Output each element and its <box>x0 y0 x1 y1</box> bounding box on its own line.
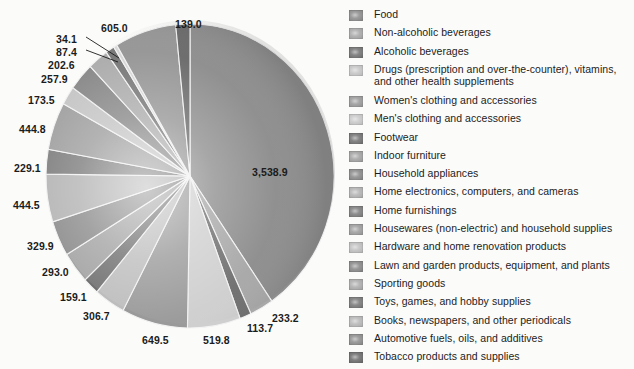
legend-item-label: Indoor furniture <box>374 149 446 162</box>
legend-item-label: Home electronics, computers, and cameras <box>374 185 579 198</box>
legend-item[interactable]: Footwear <box>349 131 418 144</box>
legend-item-label: Sporting goods <box>374 277 445 290</box>
legend-swatch-icon <box>349 261 363 272</box>
legend-item-label: Housewares (non-electric) and household … <box>374 222 612 235</box>
legend-swatch-icon <box>349 47 363 58</box>
pie-value-label: 306.7 <box>83 310 110 322</box>
legend-item[interactable]: Home electronics, computers, and cameras <box>349 185 579 198</box>
legend-swatch-icon <box>349 133 363 144</box>
legend-item[interactable]: Tobacco products and supplies <box>349 350 520 363</box>
legend-swatch-icon <box>349 65 363 76</box>
pie-value-label: 34.1 <box>56 33 77 45</box>
legend-item-label: Women's clothing and accessories <box>374 94 537 107</box>
legend-item-label: Alcoholic beverages <box>374 45 469 58</box>
legend-item-label: Automotive fuels, oils, and additives <box>374 332 543 345</box>
legend-swatch-icon <box>349 242 363 253</box>
legend-swatch-icon <box>349 187 363 198</box>
legend-swatch-icon <box>349 352 363 363</box>
legend-item[interactable]: Hardware and home renovation products <box>349 240 566 253</box>
pie-value-label: 519.8 <box>203 334 230 346</box>
pie-value-label: 173.5 <box>28 94 55 106</box>
legend-swatch-icon <box>349 114 363 125</box>
legend-item-label: Footwear <box>374 131 418 144</box>
legend-item-label: Drugs (prescription and over-the-counter… <box>374 63 616 88</box>
legend-item-label: Tobacco products and supplies <box>374 350 520 363</box>
legend-item[interactable]: Sporting goods <box>349 277 445 290</box>
legend-swatch-icon <box>349 224 363 235</box>
pie-chart-plot-area: 3,538.9139.0605.034.187.4202.6257.9173.5… <box>0 0 345 369</box>
legend-item[interactable]: Household appliances <box>349 167 478 180</box>
pie-value-label: 87.4 <box>56 46 77 58</box>
legend-item[interactable]: Books, newspapers, and other periodicals <box>349 314 571 327</box>
pie-value-label: 257.9 <box>41 73 68 85</box>
pie-value-label: 3,538.9 <box>252 166 288 178</box>
chart-legend: FoodNon-alcoholic beveragesAlcoholic bev… <box>349 0 634 369</box>
pie-value-label: 649.5 <box>142 334 169 346</box>
legend-item[interactable]: Food <box>349 8 398 21</box>
legend-item[interactable]: Home furnishings <box>349 204 457 217</box>
legend-swatch-icon <box>349 334 363 345</box>
pie-slices-group <box>46 24 334 328</box>
legend-swatch-icon <box>349 151 363 162</box>
legend-item-label: Hardware and home renovation products <box>374 240 566 253</box>
legend-item-label: Household appliances <box>374 167 478 180</box>
legend-item[interactable]: Housewares (non-electric) and household … <box>349 222 612 235</box>
legend-swatch-icon <box>349 316 363 327</box>
pie-value-label: 159.1 <box>60 291 87 303</box>
legend-item[interactable]: Men's clothing and accessories <box>349 112 521 125</box>
legend-item-label: Men's clothing and accessories <box>374 112 521 125</box>
legend-item[interactable]: Alcoholic beverages <box>349 45 469 58</box>
legend-item-label: Books, newspapers, and other periodicals <box>374 314 571 327</box>
legend-item-label: Home furnishings <box>374 204 457 217</box>
pie-value-label: 293.0 <box>42 266 69 278</box>
legend-item-label: Food <box>374 8 398 21</box>
legend-item[interactable]: Women's clothing and accessories <box>349 94 537 107</box>
legend-swatch-icon <box>349 169 363 180</box>
pie-value-label: 113.7 <box>247 322 273 334</box>
legend-item[interactable]: Non-alcoholic beverages <box>349 26 491 39</box>
legend-item-label: Non-alcoholic beverages <box>374 26 491 39</box>
legend-item[interactable]: Automotive fuels, oils, and additives <box>349 332 543 345</box>
pie-value-label: 229.1 <box>14 162 41 174</box>
legend-swatch-icon <box>349 279 363 290</box>
legend-item[interactable]: Indoor furniture <box>349 149 446 162</box>
pie-value-label: 139.0 <box>175 18 202 30</box>
pie-value-label: 329.9 <box>27 240 54 252</box>
legend-swatch-icon <box>349 10 363 21</box>
pie-value-label: 444.8 <box>19 123 46 135</box>
legend-item[interactable]: Lawn and garden products, equipment, and… <box>349 259 610 272</box>
legend-swatch-icon <box>349 297 363 308</box>
pie-chart-figure: 3,538.9139.0605.034.187.4202.6257.9173.5… <box>0 0 634 369</box>
legend-item-label: Lawn and garden products, equipment, and… <box>374 259 610 272</box>
pie-value-label: 202.6 <box>48 59 75 71</box>
pie-value-label: 444.5 <box>13 199 40 211</box>
pie-value-label: 605.0 <box>101 22 128 34</box>
legend-swatch-icon <box>349 28 363 39</box>
legend-item[interactable]: Toys, games, and hobby supplies <box>349 295 531 308</box>
legend-swatch-icon <box>349 206 363 217</box>
legend-swatch-icon <box>349 96 363 107</box>
legend-item-label: Toys, games, and hobby supplies <box>374 295 531 308</box>
pie-value-label: 233.2 <box>272 312 299 324</box>
legend-item[interactable]: Drugs (prescription and over-the-counter… <box>349 63 616 88</box>
